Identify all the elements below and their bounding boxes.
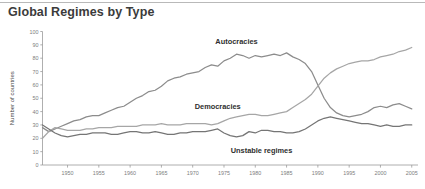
y-axis-title: Number of countries [9, 71, 15, 125]
chart-canvas: 0102030405060708090100 19501955196019651… [0, 0, 425, 189]
y-tick-label: 100 [30, 29, 39, 35]
chart-screenshot: Global Regimes by Type 01020304050607080… [0, 0, 425, 189]
x-tick-label: 2005 [406, 170, 418, 176]
series-lines [43, 48, 412, 139]
y-tick-label: 30 [33, 122, 39, 128]
x-tick-label: 1950 [62, 170, 74, 176]
x-tick-label: 1955 [93, 170, 105, 176]
series-line-democracies [43, 48, 412, 139]
y-tick-label: 80 [33, 55, 39, 61]
x-tick-label: 1995 [343, 170, 355, 176]
y-tick-label: 20 [33, 135, 39, 141]
line-chart: 0102030405060708090100 19501955196019651… [0, 0, 425, 189]
x-tick-label: 1975 [218, 170, 230, 176]
y-tick-label: 0 [36, 162, 39, 168]
x-tick-label: 1980 [249, 170, 261, 176]
y-tick-label: 70 [33, 69, 39, 75]
series-labels: AutocraciesDemocraciesUnstable regimes [195, 37, 293, 155]
series-label-unstable-regimes: Unstable regimes [231, 146, 293, 155]
y-tick-label: 10 [33, 149, 39, 155]
x-tick-label: 1960 [124, 170, 136, 176]
x-tick-label: 1990 [312, 170, 324, 176]
x-axis: 1950195519601965197019751980198519901995… [43, 165, 419, 176]
y-axis-title-text: Number of countries [9, 71, 15, 125]
y-tick-label: 50 [33, 95, 39, 101]
y-axis: 0102030405060708090100 [30, 29, 43, 169]
series-label-democracies: Democracies [195, 102, 241, 111]
y-tick-label: 60 [33, 82, 39, 88]
y-tick-label: 40 [33, 109, 39, 115]
x-tick-label: 1970 [187, 170, 199, 176]
x-tick-label: 2000 [374, 170, 386, 176]
x-tick-label: 1985 [281, 170, 293, 176]
y-tick-label: 90 [33, 42, 39, 48]
x-tick-label: 1965 [155, 170, 167, 176]
series-label-autocracies: Autocracies [215, 37, 257, 46]
